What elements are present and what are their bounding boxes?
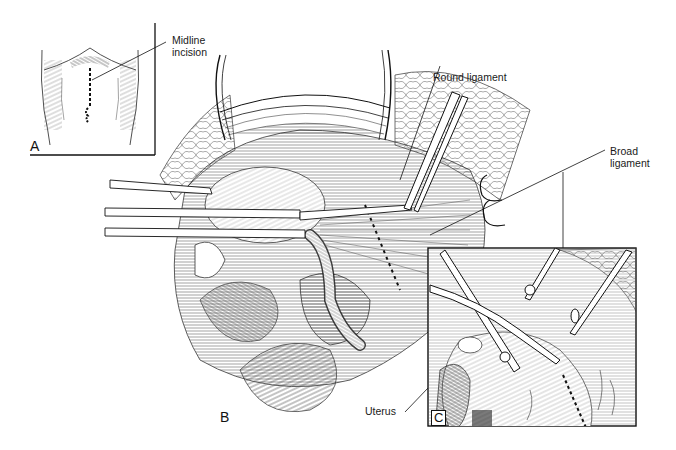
- panel-letter-c: C: [431, 410, 446, 426]
- label-midline-incision: Midline incision: [172, 34, 207, 58]
- panel-c: [405, 248, 640, 430]
- panel-letter-b: B: [220, 410, 229, 424]
- label-round-ligament: Round ligament: [433, 71, 507, 83]
- panel-letter-a: A: [30, 139, 39, 153]
- surgical-illustration: [0, 0, 676, 450]
- panel-a: [30, 23, 166, 155]
- label-uterus: Uterus: [365, 405, 396, 417]
- label-broad-ligament: Broad ligament: [610, 145, 650, 169]
